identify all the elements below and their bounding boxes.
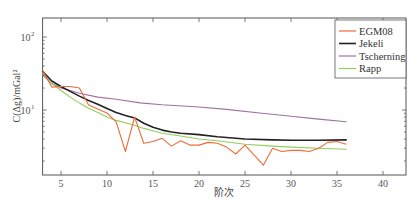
- legend-label-rapp: Rapp: [359, 63, 381, 74]
- x-tick-label: 15: [148, 178, 158, 189]
- x-tick-label: 20: [194, 178, 204, 189]
- x-tick-label: 25: [240, 178, 250, 189]
- x-tick-label: 30: [286, 178, 296, 189]
- x-tick-label: 10: [102, 178, 112, 189]
- x-axis-label: 阶次: [214, 186, 234, 198]
- x-tick-label: 5: [59, 178, 64, 189]
- legend-label-egm08: EGM08: [359, 26, 393, 37]
- legend: EGM08JekeliTscherningRapp: [335, 20, 406, 78]
- line-chart: 510152025303540 101102 阶次 C(Δg)/mGal² EG…: [0, 0, 419, 211]
- series-layer: [43, 70, 347, 165]
- legend-label-jekeli: Jekeli: [359, 38, 384, 49]
- y-tick-label: 10: [21, 105, 31, 116]
- y-axis-label: C(Δg)/mGal²: [11, 70, 23, 123]
- legend-label-tscherning: Tscherning: [359, 51, 406, 62]
- y-tick-label: 10: [21, 32, 31, 43]
- x-tick-label: 35: [332, 178, 342, 189]
- x-tick-label: 40: [378, 178, 388, 189]
- series-rapp: [43, 73, 347, 149]
- series-jekeli: [43, 71, 347, 140]
- y-tick-exponent: 2: [31, 30, 35, 38]
- y-tick-exponent: 1: [31, 103, 35, 111]
- series-tscherning: [43, 75, 347, 122]
